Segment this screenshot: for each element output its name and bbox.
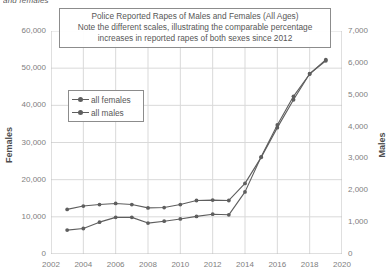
chart-title-line-1: Police Reported Rapes of Males and Femal…: [63, 11, 327, 22]
gridlines: [51, 31, 342, 254]
y-left-tick-label: 0: [6, 249, 46, 258]
y-right-tick-label: 3,000: [348, 153, 388, 162]
legend-item-all-females[interactable]: all females: [72, 93, 140, 106]
chart-title-line-2: Note the different scales, illustrating …: [63, 22, 327, 33]
y-right-tick-label: 5,000: [348, 90, 388, 99]
legend-item-all-males[interactable]: all males: [72, 106, 140, 119]
plot-svg: [51, 31, 342, 254]
y-left-tick-label: 60,000: [6, 26, 46, 35]
y-right-tick-label: 2,000: [348, 185, 388, 194]
y-right-tick-label: 0: [348, 249, 388, 258]
y-left-tick-label: 20,000: [6, 175, 46, 184]
x-tick-label: 2020: [322, 260, 362, 269]
y-left-tick-label: 50,000: [6, 63, 46, 72]
y-left-tick-label: 30,000: [6, 138, 46, 147]
y-right-tick-label: 1,000: [348, 217, 388, 226]
y-right-tick-label: 4,000: [348, 122, 388, 131]
chart-title-line-3: increases in reported rapes of both sexe…: [63, 33, 327, 44]
chart-screenshot: and females Females Males 010,00020,0003…: [0, 0, 389, 274]
legend-label: all females: [91, 95, 131, 105]
legend-marker-icon: [72, 95, 89, 104]
legend-label: all males: [91, 108, 124, 118]
y-right-tick-label: 6,000: [348, 58, 388, 67]
chart-legend: all females all males: [68, 90, 144, 122]
y-left-tick-label: 40,000: [6, 100, 46, 109]
clipped-header-text: and females: [3, 0, 123, 5]
y-right-tick-label: 7,000: [348, 26, 388, 35]
plot-area: [51, 31, 342, 254]
y-left-tick-label: 10,000: [6, 212, 46, 221]
chart-title-box: Police Reported Rapes of Males and Femal…: [59, 8, 331, 48]
legend-marker-icon: [72, 108, 89, 117]
series-layer: [65, 58, 327, 232]
